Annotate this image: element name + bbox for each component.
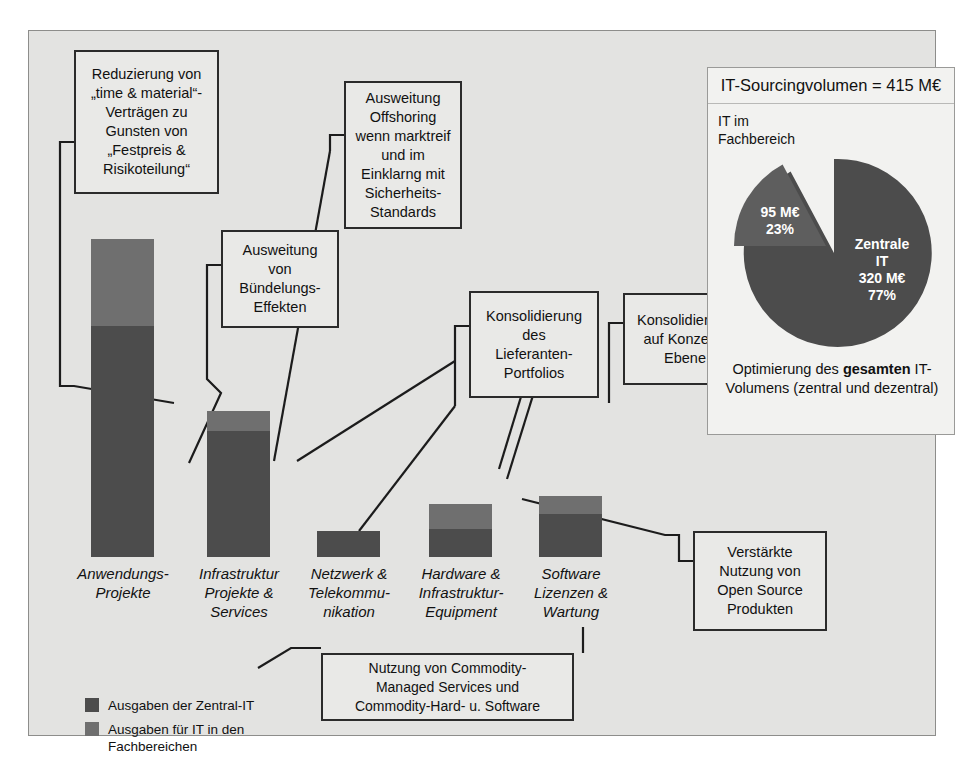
bar-infrastruktur-projekte-services xyxy=(207,411,270,557)
pie-footer-bold: gesamten xyxy=(843,361,911,377)
pie-panel-title: IT-Sourcingvolumen = 415 M€ xyxy=(708,68,954,104)
callout-open-source[interactable]: Verstärkte Nutzung von Open Source Produ… xyxy=(693,531,827,631)
legend-item-fachbereiche: Ausgaben für IT in den Fachbereichen xyxy=(85,721,254,755)
legend-item-zentral-it: Ausgaben der Zentral-IT xyxy=(85,697,254,714)
pie-footer-pre: Optimierung des xyxy=(732,361,842,377)
pie-chart: 95 M€ 23% Zentrale IT 320 M€ 77% xyxy=(722,146,942,352)
callout-commodity[interactable]: Nutzung von Commodity- Managed Services … xyxy=(321,653,574,721)
pie-panel: IT-Sourcingvolumen = 415 M€ IT im Fachbe… xyxy=(707,67,955,435)
bar-segment-zentral xyxy=(429,529,492,557)
category-label-infrastruktur: Infrastruktur Projekte & Services xyxy=(181,564,297,621)
connector-offshoring xyxy=(330,135,344,151)
connector-konzern-bracket xyxy=(609,323,623,403)
callout-offshoring[interactable]: Ausweitung Offshoring wenn marktreif und… xyxy=(344,81,462,229)
category-label-anwendungs-projekte: Anwendungs- Projekte xyxy=(65,564,181,602)
bar-hardware-infrastruktur-equipment xyxy=(429,504,492,557)
callout-reduzierung[interactable]: Reduzierung von „time & material“- Vertr… xyxy=(74,50,219,194)
callout-buendelung[interactable]: Ausweitung von Bündelungs- Effekten xyxy=(221,230,339,328)
bar-anwendungs-projekte xyxy=(91,239,154,557)
connector-lieferanten-bracket xyxy=(455,326,469,406)
connector-commodity-left xyxy=(258,648,321,668)
bar-netzwerk-telekommunikation xyxy=(317,531,380,557)
bar-segment-zentral xyxy=(91,326,154,557)
pie-panel-footer: Optimierung des gesamten IT-Volumens (ze… xyxy=(716,360,948,398)
pie-subtitle-fachbereich: IT im Fachbereich xyxy=(718,112,795,148)
connector-lieferanten-a xyxy=(297,361,455,461)
category-label-software: Software Lizenzen & Wartung xyxy=(513,564,629,621)
pie-label-zentrale-it: Zentrale IT 320 M€ 77% xyxy=(840,236,924,304)
slide-page: Anwendungs- Projekte Infrastruktur Proje… xyxy=(0,0,964,761)
chart-legend: Ausgaben der Zentral-IT Ausgaben für IT … xyxy=(85,697,254,761)
bar-segment-fachbereiche xyxy=(207,411,270,431)
bar-segment-fachbereiche xyxy=(429,504,492,529)
bar-software-lizenzen-wartung xyxy=(539,496,602,557)
callout-lieferanten-portfolio[interactable]: Konsolidierung des Lieferanten- Portfoli… xyxy=(469,291,599,398)
legend-swatch-dark xyxy=(85,698,99,712)
bar-segment-fachbereiche xyxy=(91,239,154,326)
slide-frame: Anwendungs- Projekte Infrastruktur Proje… xyxy=(28,30,936,736)
bar-segment-zentral xyxy=(207,431,270,557)
category-label-netzwerk: Netzwerk & Telekommu- nikation xyxy=(291,564,407,621)
bar-segment-zentral xyxy=(317,531,380,557)
category-label-hardware: Hardware & Infrastruktur- Equipment xyxy=(403,564,519,621)
bar-segment-fachbereiche xyxy=(539,496,602,514)
legend-swatch-light xyxy=(85,722,99,736)
bar-segment-zentral xyxy=(539,514,602,557)
pie-label-it-fachbereich: 95 M€ 23% xyxy=(740,204,820,238)
legend-label-zentral-it: Ausgaben der Zentral-IT xyxy=(108,697,254,714)
legend-label-fachbereiche: Ausgaben für IT in den Fachbereichen xyxy=(108,721,244,755)
